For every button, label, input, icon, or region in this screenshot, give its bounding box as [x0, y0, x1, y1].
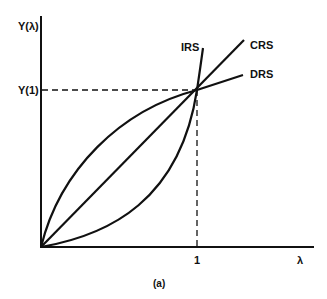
x-axis-label: λ [297, 254, 303, 266]
figure-caption: (a) [153, 278, 165, 289]
irs-curve [41, 48, 203, 247]
crs-label: CRS [250, 39, 273, 51]
returns-to-scale-chart [0, 0, 327, 299]
drs-label: DRS [250, 68, 273, 80]
y-axis-label: Y(λ) [18, 20, 39, 32]
x-tick-label: 1 [194, 254, 200, 266]
crs-curve [41, 40, 244, 247]
drs-curve [41, 75, 243, 247]
irs-label: IRS [181, 41, 199, 53]
y1-tick-label: Y(1) [18, 84, 39, 96]
